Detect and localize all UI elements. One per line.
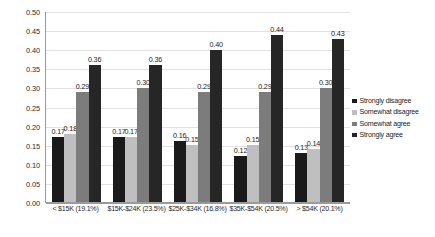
bar[interactable]: 0.30 [137,88,149,202]
bar-value-label: 0.29 [258,82,271,91]
bar-slot: 0.44 [271,12,283,202]
bar-value-label: 0.12 [234,146,247,155]
bar-slot: 0.36 [149,12,161,202]
y-axis-tick-label: 0.50 [26,8,40,17]
bar-group: 0.170.170.300.36 [107,12,168,202]
bar-slot: 0.17 [52,12,64,202]
bar-slot: 0.17 [125,12,137,202]
bar[interactable]: 0.43 [332,39,344,202]
bar-value-label: 0.44 [270,25,283,34]
legend-item[interactable]: Strongly agree [352,131,434,139]
bar-slot: 0.43 [332,12,344,202]
bar-value-label: 0.36 [149,55,162,64]
bar[interactable]: 0.44 [271,35,283,202]
y-axis-tick-label: 0.30 [26,84,40,93]
x-axis-tick-label: $25K-$34K (16.8%) [167,205,228,223]
bar-slot: 0.40 [210,12,222,202]
bar-slot: 0.12 [234,12,246,202]
bar-group: 0.120.150.290.44 [228,12,289,202]
bar-group: 0.130.140.300.43 [289,12,350,202]
bar-value-label: 0.30 [319,78,332,87]
y-axis-tick-label: 0.10 [26,160,40,169]
bar[interactable]: 0.16 [174,141,186,202]
plot-area: 0.170.180.290.360.170.170.300.360.160.15… [45,12,350,203]
bar[interactable]: 0.15 [186,145,198,202]
bar-group-bars: 0.120.150.290.44 [234,12,283,202]
y-axis: Proportion 0.000.050.100.150.200.250.300… [0,12,45,203]
bar-slot: 0.29 [259,12,271,202]
bar-slot: 0.17 [113,12,125,202]
x-axis-tick-label: $35K-$54K (20.5%) [228,205,289,223]
bar[interactable]: 0.14 [307,149,319,202]
legend-swatch-icon [352,133,357,138]
bar[interactable]: 0.17 [113,137,125,202]
bar-value-label: 0.43 [331,29,344,38]
bar-value-label: 0.30 [137,78,150,87]
legend-swatch-icon [352,122,357,127]
bar-slot: 0.18 [64,12,76,202]
bar-slot: 0.29 [198,12,210,202]
bar-value-label: 0.29 [76,82,89,91]
bar-value-label: 0.29 [197,82,210,91]
bar[interactable]: 0.36 [89,65,101,202]
bar[interactable]: 0.17 [52,137,64,202]
bar-value-label: 0.17 [124,127,137,136]
y-axis-tick-label: 0.35 [26,65,40,74]
legend-swatch-icon [352,110,357,115]
bar[interactable]: 0.40 [210,50,222,202]
x-axis-tick-label: $15K-$24K (23.5%) [106,205,167,223]
bar-value-label: 0.40 [210,40,223,49]
bar[interactable]: 0.29 [76,92,88,202]
y-axis-tick-label: 0.00 [26,199,40,208]
bar-group: 0.160.150.290.40 [168,12,229,202]
bar[interactable]: 0.18 [64,134,76,202]
y-axis-tick-label: 0.15 [26,141,40,150]
legend-label: Somewhat disagree [360,108,419,116]
bar-value-label: 0.15 [185,135,198,144]
bar-slot: 0.13 [295,12,307,202]
gridline [46,203,350,204]
bar-group: 0.170.180.290.36 [46,12,107,202]
x-axis-labels: < $15K (19.1%)$15K-$24K (23.5%)$25K-$34K… [45,205,350,223]
bar-value-label: 0.36 [88,55,101,64]
bar-groups: 0.170.180.290.360.170.170.300.360.160.15… [46,12,350,202]
bar[interactable]: 0.13 [295,153,307,202]
bar-slot: 0.14 [307,12,319,202]
bar-value-label: 0.14 [307,139,320,148]
legend-label: Strongly disagree [360,97,412,105]
bar-group-bars: 0.130.140.300.43 [295,12,344,202]
bar[interactable]: 0.29 [259,92,271,202]
y-axis-tick-label: 0.05 [26,179,40,188]
y-axis-tick-label: 0.45 [26,27,40,36]
bar-value-label: 0.15 [246,135,259,144]
x-axis-tick-label: > $54K (20.1%) [289,205,350,223]
bar[interactable]: 0.30 [320,88,332,202]
bar-group-bars: 0.170.170.300.36 [113,12,162,202]
bar-group-bars: 0.160.150.290.40 [174,12,223,202]
legend-item[interactable]: Somewhat disagree [352,108,434,116]
bar-chart: Proportion 0.000.050.100.150.200.250.300… [0,0,435,237]
bar-slot: 0.29 [76,12,88,202]
bar[interactable]: 0.36 [149,65,161,202]
bar-slot: 0.16 [174,12,186,202]
legend-label: Strongly agree [360,131,403,139]
legend-item[interactable]: Strongly disagree [352,97,434,105]
bar[interactable]: 0.12 [234,156,246,202]
legend: Strongly disagreeSomewhat disagreeSomewh… [352,97,434,139]
bar[interactable]: 0.29 [198,92,210,202]
legend-label: Somewhat agree [360,120,411,128]
x-axis-tick-label: < $15K (19.1%) [45,205,106,223]
legend-item[interactable]: Somewhat agree [352,120,434,128]
bar-slot: 0.30 [137,12,149,202]
legend-swatch-icon [352,99,357,104]
y-axis-tick-label: 0.20 [26,122,40,131]
y-axis-tick-label: 0.25 [26,103,40,112]
bar-value-label: 0.18 [64,124,77,133]
bar-slot: 0.30 [320,12,332,202]
y-axis-tick-label: 0.40 [26,46,40,55]
bar-slot: 0.15 [247,12,259,202]
bar-slot: 0.15 [186,12,198,202]
bar-slot: 0.36 [89,12,101,202]
bar[interactable]: 0.15 [247,145,259,202]
bar[interactable]: 0.17 [125,137,137,202]
